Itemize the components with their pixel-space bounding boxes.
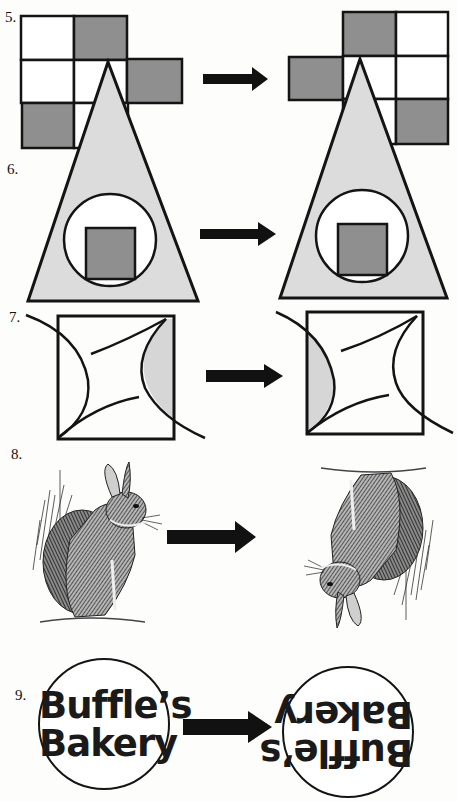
sign-line-2: Bakery [283,695,413,733]
right-arrow-icon [206,364,283,388]
problem-7-before-figure [26,315,205,439]
problem-7-after-figure [276,312,453,434]
problem-8-before-rabbit [33,462,162,622]
right-arrow-icon [203,67,268,91]
problem-8-after-rabbit [304,468,433,628]
right-arrow-icon [167,521,256,553]
sign-line-1: Buffle’s [283,733,413,771]
problem-9-before-sign-text: Buffle’s Bakery [39,687,169,763]
figure-canvas [0,0,457,801]
problem-9-after-sign-text: Buffle’s Bakery [283,695,413,771]
sign-line-2: Bakery [39,725,169,763]
sign-line-1: Buffle’s [39,687,169,725]
right-arrow-icon [200,222,276,246]
right-arrow-icon [183,711,272,743]
